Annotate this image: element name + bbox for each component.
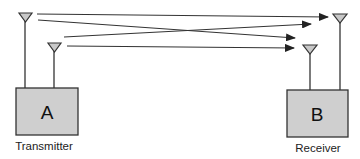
tx-antenna-2-icon [48,43,61,52]
transmitter-caption: Transmitter [15,140,73,152]
path-tx1-rx1 [37,14,328,17]
receiver-caption: Receiver [295,142,341,154]
path-tx2-rx1 [64,24,311,37]
path-tx2-rx2 [67,46,294,48]
transmitter-block: A Transmitter [15,88,78,152]
diagram-canvas: A Transmitter B Receiver [0,0,360,159]
receiver-box-label: B [311,104,324,125]
receiver-block: B Receiver [287,90,348,154]
transmitter-box-label: A [41,102,54,123]
tx-antenna-1-icon [19,13,32,22]
path-tx1-rx2 [38,20,295,38]
rx-antenna-2-icon [303,45,317,54]
rx-antenna-1-icon [333,14,347,23]
